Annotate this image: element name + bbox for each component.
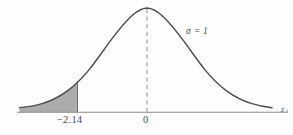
- x-axis-name-label: z: [281, 105, 284, 114]
- x-tick-label-zero: 0: [143, 114, 148, 125]
- x-tick-label-neg-2-14: −2.14: [57, 114, 82, 125]
- normal-curve: [20, 8, 273, 108]
- shaded-tail-region: [20, 82, 78, 113]
- sigma-annotation-label: σ = 1: [186, 26, 208, 36]
- normal-distribution-figure: −2.14 0 z σ = 1: [0, 0, 293, 135]
